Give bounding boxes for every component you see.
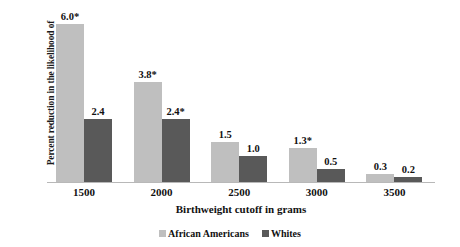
bar-value-label: 0.2 — [402, 164, 415, 175]
bar-group: 6.0*2.4 — [56, 8, 112, 182]
x-tick-label-3500: 3500 — [383, 186, 405, 198]
bar-group: 3.8*2.4* — [134, 8, 190, 182]
x-axis-line — [47, 182, 435, 183]
bar-group: 1.3*0.5 — [289, 8, 345, 182]
bar-value-label: 0.3 — [374, 161, 387, 172]
bar-rect — [317, 169, 345, 182]
bar-rect — [366, 174, 394, 182]
bar-value-label: 3.8* — [138, 69, 156, 80]
bar-group: 0.30.2 — [366, 8, 422, 182]
bar-whites-3000[interactable]: 0.5 — [317, 169, 345, 182]
bar-african-americans-1500[interactable]: 6.0* — [56, 24, 84, 182]
bar-value-label: 1.3* — [294, 135, 312, 146]
legend-item-whites[interactable]: Whites — [262, 228, 301, 239]
bar-rect — [134, 82, 162, 182]
bar-group: 1.51.0 — [211, 8, 267, 182]
bar-value-label: 1.5 — [219, 129, 232, 140]
bar-rect — [211, 142, 239, 182]
legend-swatch-icon — [262, 230, 269, 237]
bar-rect — [162, 119, 190, 182]
x-tick-label-1500: 1500 — [73, 186, 95, 198]
chart-legend: African AmericansWhites — [0, 228, 460, 239]
bar-whites-1500[interactable]: 2.4 — [84, 119, 112, 182]
bar-african-americans-3500[interactable]: 0.3 — [366, 174, 394, 182]
x-tick-label-3000: 3000 — [306, 186, 328, 198]
bar-value-label: 2.4* — [166, 106, 184, 117]
bar-whites-2000[interactable]: 2.4* — [162, 119, 190, 182]
bar-value-label: 6.0* — [61, 11, 79, 22]
x-tick-label-2500: 2500 — [228, 186, 250, 198]
bar-chart: Percent reduction in the likelihood of b… — [0, 0, 460, 247]
bar-african-americans-2500[interactable]: 1.5 — [211, 142, 239, 182]
x-axis-tick-labels: 15002000250030003500 — [47, 186, 435, 202]
bar-whites-2500[interactable]: 1.0 — [239, 156, 267, 182]
legend-item-african-americans[interactable]: African Americans — [159, 228, 249, 239]
bar-rect — [84, 119, 112, 182]
plot-area: 6.0*2.43.8*2.4*1.51.01.3*0.50.30.2 — [47, 8, 435, 183]
bar-rect — [289, 148, 317, 182]
bar-rect — [56, 24, 84, 182]
legend-item-label: Whites — [271, 228, 301, 239]
bar-value-label: 1.0 — [247, 143, 260, 154]
x-axis-title: Birthweight cutoff in grams — [47, 203, 435, 215]
x-tick-label-2000: 2000 — [151, 186, 173, 198]
bar-value-label: 2.4 — [91, 106, 104, 117]
bar-african-americans-3000[interactable]: 1.3* — [289, 148, 317, 182]
bar-african-americans-2000[interactable]: 3.8* — [134, 82, 162, 182]
legend-swatch-icon — [159, 230, 166, 237]
bar-rect — [239, 156, 267, 182]
bar-value-label: 0.5 — [324, 156, 337, 167]
legend-item-label: African Americans — [168, 228, 249, 239]
